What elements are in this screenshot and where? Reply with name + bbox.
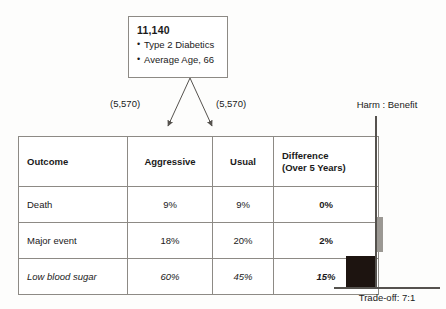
column-header-outcome: Outcome	[19, 137, 128, 187]
cell-usual: 9%	[213, 187, 274, 223]
column-header-difference-line1: Difference	[282, 150, 370, 162]
cell-difference: 0%	[274, 187, 379, 223]
population-count: 11,140	[137, 23, 227, 37]
column-header-difference: Difference (Over 5 Years)	[274, 137, 379, 187]
branch-arrows-icon	[160, 78, 220, 136]
cell-outcome: Low blood sugar	[19, 259, 128, 295]
table-row: Major event 18% 20% 2%	[19, 223, 379, 259]
harm-bar	[346, 256, 375, 287]
figure-canvas: 11,140 •Type 2 Diabetics •Average Age, 6…	[0, 0, 446, 309]
cell-usual: 20%	[213, 223, 274, 259]
column-header-aggressive: Aggressive	[128, 137, 213, 187]
outcomes-table-container: Outcome Aggressive Usual Difference (Ove…	[18, 136, 310, 291]
cell-outcome: Major event	[19, 223, 128, 259]
population-detail-0-label: Type 2 Diabetics	[144, 39, 214, 50]
column-header-difference-line2: (Over 5 Years)	[282, 162, 370, 174]
bullet-icon: •	[137, 52, 144, 66]
outcomes-table: Outcome Aggressive Usual Difference (Ove…	[18, 136, 379, 295]
population-detail-0: •Type 2 Diabetics	[137, 37, 227, 52]
table-row: Low blood sugar 60% 45% 15%	[19, 259, 379, 295]
population-box: 11,140 •Type 2 Diabetics •Average Age, 6…	[128, 16, 228, 78]
table-header-row: Outcome Aggressive Usual Difference (Ove…	[19, 137, 379, 187]
benefit-bar	[377, 217, 383, 252]
chart-baseline-axis	[334, 287, 440, 289]
cell-outcome: Death	[19, 187, 128, 223]
cell-difference: 2%	[274, 223, 379, 259]
cell-aggressive: 9%	[128, 187, 213, 223]
cell-usual: 45%	[213, 259, 274, 295]
table-body: Death 9% 9% 0% Major event 18% 20% 2% Lo…	[19, 187, 379, 295]
table-head: Outcome Aggressive Usual Difference (Ove…	[19, 137, 379, 187]
cell-aggressive: 60%	[128, 259, 213, 295]
tradeoff-label: Trade-off: 7:1	[334, 292, 440, 303]
chart-vertical-axis	[375, 116, 377, 288]
cell-aggressive: 18%	[128, 223, 213, 259]
branch-label-usual: (5,570)	[216, 98, 246, 109]
bullet-icon: •	[137, 37, 144, 51]
column-header-usual: Usual	[213, 137, 274, 187]
population-detail-1-label: Average Age, 66	[144, 54, 214, 65]
branch-label-aggressive: (5,570)	[110, 98, 140, 109]
harm-benefit-title: Harm : Benefit	[334, 99, 440, 110]
table-row: Death 9% 9% 0%	[19, 187, 379, 223]
population-detail-1: •Average Age, 66	[137, 52, 227, 67]
